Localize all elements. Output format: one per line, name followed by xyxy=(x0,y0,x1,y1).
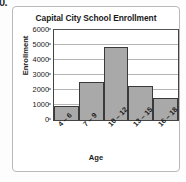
x-axis-title: Age xyxy=(13,153,179,162)
y-axis-tick-label: 4000 xyxy=(33,55,49,64)
y-axis-tick xyxy=(48,119,51,120)
y-axis-tick-label: 5000 xyxy=(33,40,49,49)
plot-area xyxy=(53,29,179,121)
chart-title: Capital City School Enrollment xyxy=(13,13,179,23)
y-axis-tick-labels: 0100020003000400050006000 xyxy=(21,29,51,119)
figure-panel: Capital City School Enrollment Enrollmen… xyxy=(12,6,180,172)
y-axis-tick xyxy=(48,74,51,75)
question-number: 0. xyxy=(0,0,7,8)
y-axis-tick-label: 6000 xyxy=(33,25,49,34)
bar-slot xyxy=(79,30,104,120)
y-axis-tick xyxy=(48,89,51,90)
y-axis-tick xyxy=(48,29,51,30)
y-axis-tick-label: 1000 xyxy=(33,100,49,109)
y-axis-tick-label: 3000 xyxy=(33,70,49,79)
y-axis-tick xyxy=(48,44,51,45)
y-axis-tick xyxy=(48,104,51,105)
bar-slot xyxy=(54,30,79,120)
chart-page: 0. Capital City School Enrollment Enroll… xyxy=(0,0,186,182)
bars-layer xyxy=(54,30,178,120)
y-axis-tick-label: 2000 xyxy=(33,85,49,94)
x-axis-tick-labels: 4 – 67 – 910 – 1213 – 1516 – 18 xyxy=(53,120,177,154)
y-axis-tick xyxy=(48,59,51,60)
